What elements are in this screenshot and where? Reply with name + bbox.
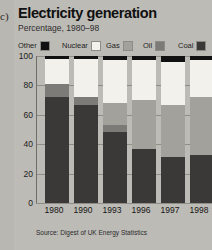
bar-segment-coal [190,155,212,204]
legend-label: Oil [143,40,152,51]
figure-panel: c) Electricity generation Percentage, 19… [0,0,212,250]
legend-swatch-icon [40,41,50,51]
legend-label: Gas [106,40,120,51]
y-tick-label: 80 [24,80,33,90]
bar-segment-nuclear [190,60,212,97]
y-tick-label: 0 [28,198,33,208]
bar-stack-1993[interactable] [103,56,127,203]
y-tick-label: 60 [24,110,33,120]
x-tick-label: 1993 [97,205,127,215]
bar-segment-nuclear [45,59,69,84]
legend-label: Nuclear [62,40,88,51]
bar-segment-other [103,56,127,60]
legend-swatch-icon [155,41,165,51]
legend-swatch-icon [196,41,206,51]
bar-segment-coal [45,97,69,203]
bar-segment-coal [161,157,185,203]
bar-segment-other [132,56,156,60]
bar-series-group [36,56,212,203]
bar-segment-oil [103,125,127,132]
bar-segment-oil [45,84,69,97]
bar-segment-coal [132,149,156,203]
bar-stack-1990[interactable] [74,56,98,203]
legend-item-coal[interactable]: Coal [178,36,206,47]
y-tick-label: 100 [19,51,33,61]
x-axis-labels: 198019901993199619971998 [36,205,212,217]
x-tick-label: 1998 [184,205,212,215]
legend-item-nuclear[interactable]: Nuclear [62,36,101,47]
plot-area: 020406080100 [36,56,212,203]
x-tick-label: 1996 [126,205,156,215]
x-tick-label: 1980 [39,205,69,215]
bar-segment-gas [161,105,185,158]
bar-stack-1996[interactable] [132,56,156,203]
bar-segment-nuclear [161,62,185,105]
y-tick-label: 40 [24,139,33,149]
source-note: Source: Digest of UK Energy Statistics [36,229,147,236]
legend-swatch-icon [91,41,101,51]
legend-item-gas[interactable]: Gas [106,36,133,47]
bar-stack-1998[interactable] [190,56,212,203]
bar-segment-other [74,56,98,59]
legend-item-other[interactable]: Other [18,36,50,47]
bar-segment-coal [103,132,127,203]
bar-segment-coal [74,105,98,203]
x-tick-label: 1990 [68,205,98,215]
chart-card: Electricity generation Percentage, 1980–… [14,0,212,250]
bar-segment-gas [132,100,156,149]
x-tick-label: 1997 [155,205,185,215]
bar-segment-other [45,56,69,59]
panel-letter: c) [0,10,9,22]
chart-title: Electricity generation [18,5,157,21]
chart-subtitle: Percentage, 1980–98 [18,23,99,33]
legend-item-oil[interactable]: Oil [143,36,165,47]
bar-stack-1997[interactable] [161,56,185,203]
gridline [36,203,212,204]
bar-segment-oil [74,97,98,104]
bar-segment-nuclear [132,60,156,100]
legend-swatch-icon [123,41,133,51]
bar-stack-1980[interactable] [45,56,69,203]
bar-segment-nuclear [103,60,127,103]
legend-label: Other [18,40,37,51]
legend-label: Coal [178,40,193,51]
chart-legend: OtherNuclearGasOilCoal [18,36,210,47]
bar-segment-other [190,56,212,60]
y-tick-label: 20 [24,169,33,179]
bar-segment-gas [190,97,212,154]
bar-segment-other [161,56,185,62]
bar-segment-gas [103,103,127,125]
bar-segment-nuclear [74,59,98,97]
